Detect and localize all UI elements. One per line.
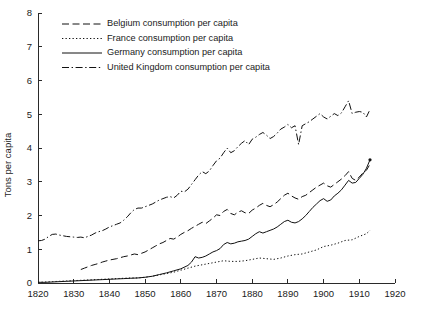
line-chart: 012345678 182018301840185018601870188018… xyxy=(0,0,422,313)
y-axis: 012345678 xyxy=(27,7,42,288)
series-line-germany xyxy=(38,160,370,283)
y-tick-label: 6 xyxy=(27,75,32,86)
chart-container: 012345678 182018301840185018601870188018… xyxy=(0,0,422,313)
chart-legend: Belgium consumption per capitaFrance con… xyxy=(62,18,271,72)
x-axis: 1820183018401850186018701880189019001910… xyxy=(27,279,405,299)
y-axis-title: Tons per capita xyxy=(2,132,13,197)
legend-label-united: United Kingdom consumption per capita xyxy=(107,62,271,72)
y-tick-label: 2 xyxy=(27,210,32,221)
y-tick-label: 8 xyxy=(27,7,32,18)
y-tick-label: 1 xyxy=(27,244,32,255)
x-tick-label: 1920 xyxy=(384,288,405,299)
x-tick-label: 1870 xyxy=(206,288,227,299)
x-tick-label: 1890 xyxy=(277,288,298,299)
y-tick-label: 3 xyxy=(27,176,32,187)
y-tick-label: 4 xyxy=(27,142,32,153)
y-tick-label: 7 xyxy=(27,41,32,52)
x-tick-label: 1910 xyxy=(349,288,370,299)
y-tick-label: 0 xyxy=(27,277,32,288)
germany-endpoint-marker xyxy=(368,158,371,161)
x-tick-label: 1830 xyxy=(63,288,84,299)
x-tick-label: 1860 xyxy=(170,288,191,299)
legend-label-belgium: Belgium consumption per capita xyxy=(107,18,239,28)
series-line-belgium xyxy=(81,164,370,269)
series-line-united xyxy=(38,101,370,241)
x-tick-label: 1820 xyxy=(27,288,48,299)
x-tick-label: 1900 xyxy=(313,288,334,299)
legend-label-germany: Germany consumption per capita xyxy=(107,47,243,57)
x-tick-label: 1840 xyxy=(99,288,120,299)
x-tick-label: 1850 xyxy=(135,288,156,299)
y-tick-label: 5 xyxy=(27,109,32,120)
legend-label-france: France consumption per capita xyxy=(107,33,234,43)
x-tick-label: 1880 xyxy=(242,288,263,299)
series-lines xyxy=(38,101,372,283)
